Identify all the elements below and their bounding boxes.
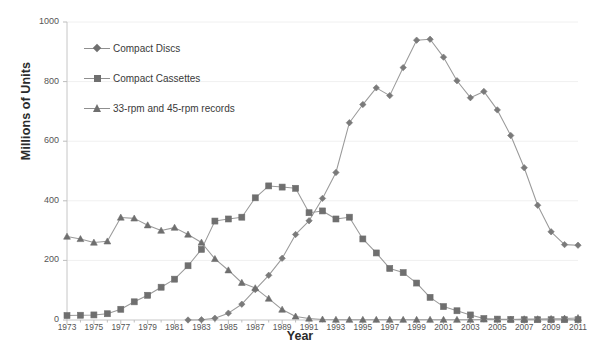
data-point-marker	[117, 214, 124, 220]
data-point-marker	[441, 304, 447, 310]
data-point-marker	[172, 276, 178, 282]
data-point-marker	[360, 236, 366, 242]
data-point-marker	[252, 195, 258, 201]
data-point-marker	[91, 312, 97, 318]
data-point-marker	[212, 218, 218, 224]
data-point-marker	[198, 246, 204, 252]
data-point-marker	[131, 299, 137, 305]
y-axis-tick-label: 1000	[19, 16, 59, 26]
data-point-marker	[185, 231, 192, 237]
data-point-marker	[414, 280, 420, 286]
data-point-marker	[346, 214, 352, 220]
series-1	[185, 36, 581, 323]
legend-item-label: Compact Discs	[110, 43, 180, 54]
y-axis-tick-label: 400	[19, 195, 59, 205]
data-point-marker	[77, 312, 83, 318]
data-point-marker	[171, 224, 178, 230]
legend-item-label: 33-rpm and 45-rpm records	[110, 103, 235, 114]
data-point-marker	[333, 169, 339, 175]
data-point-marker	[198, 239, 205, 245]
series-2	[64, 183, 581, 323]
data-point-marker	[454, 308, 460, 314]
data-point-marker	[225, 310, 231, 316]
data-point-marker	[521, 165, 527, 171]
data-point-marker	[400, 64, 406, 70]
data-point-marker	[373, 250, 379, 256]
data-point-marker	[239, 214, 245, 220]
data-point-marker	[387, 265, 393, 271]
data-point-marker	[306, 210, 312, 216]
axis-tickmarks	[63, 22, 578, 324]
legend-item-label: Compact Cassettes	[110, 73, 200, 84]
data-point-marker	[64, 313, 70, 319]
data-point-marker	[145, 292, 151, 298]
data-point-marker	[293, 185, 299, 191]
data-point-marker	[279, 184, 285, 190]
gridlines	[67, 22, 578, 260]
triangle-marker-icon	[84, 102, 110, 114]
legend-item-1[interactable]: Compact Discs	[84, 42, 180, 54]
axis-lines	[67, 22, 578, 320]
y-axis-tick-label: 200	[19, 254, 59, 264]
data-point-marker	[104, 311, 110, 317]
y-axis-title: Millions of Units	[19, 41, 33, 181]
data-point-marker	[104, 238, 111, 244]
data-point-marker	[158, 284, 164, 290]
data-point-marker	[387, 92, 393, 98]
legend-item-3[interactable]: 33-rpm and 45-rpm records	[84, 102, 235, 114]
data-point-marker	[144, 222, 151, 228]
data-point-marker	[534, 202, 540, 208]
data-point-marker	[266, 183, 272, 189]
x-axis-title: Year	[0, 329, 600, 343]
series-3	[64, 214, 582, 322]
data-point-marker	[575, 242, 581, 248]
data-point-marker	[427, 294, 433, 300]
diamond-marker-icon	[84, 42, 110, 54]
data-point-marker	[400, 270, 406, 276]
data-point-marker	[508, 132, 514, 138]
data-point-marker	[320, 208, 326, 214]
data-point-marker	[118, 306, 124, 312]
data-point-marker	[413, 37, 419, 43]
square-marker-icon	[84, 72, 110, 84]
data-point-marker	[292, 313, 299, 319]
legend-item-2[interactable]: Compact Cassettes	[84, 72, 200, 84]
data-point-marker	[185, 263, 191, 269]
data-point-marker	[225, 216, 231, 222]
chart-container: 02004006008001000 1973197519771979198119…	[0, 0, 600, 351]
data-point-marker	[333, 216, 339, 222]
data-point-marker	[64, 233, 71, 239]
